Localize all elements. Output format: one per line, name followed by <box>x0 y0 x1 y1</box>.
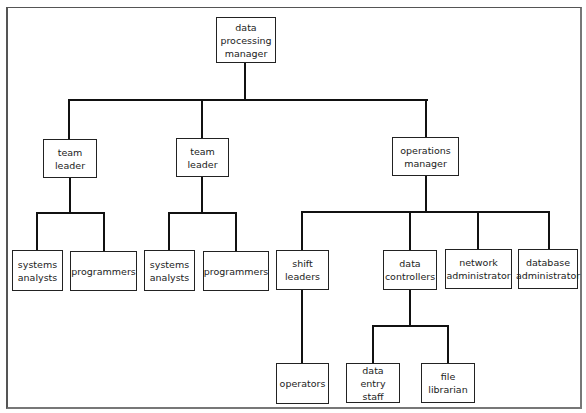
node-database-administrator: database administrator <box>518 249 578 289</box>
connector <box>201 99 203 138</box>
connector <box>548 211 550 249</box>
node-data-controllers: data controllers <box>383 250 437 290</box>
node-systems-analysts-1: systems analysts <box>12 250 63 291</box>
node-programmers-2: programmers <box>203 251 269 291</box>
node-network-administrator: network administrator <box>445 249 512 289</box>
connector <box>69 177 71 214</box>
connector <box>409 211 411 250</box>
connector <box>235 212 237 251</box>
diagram-frame <box>6 7 582 409</box>
node-data-processing-manager: data processing manager <box>216 17 276 63</box>
connector <box>301 289 303 363</box>
node-data-entry-staff: data entry staff <box>346 363 400 403</box>
connector <box>68 99 70 139</box>
connector <box>36 212 38 250</box>
connector <box>168 212 237 214</box>
connector <box>36 212 105 214</box>
connector <box>244 62 246 101</box>
connector <box>301 211 303 250</box>
connector <box>68 99 428 101</box>
node-systems-analysts-2: systems analysts <box>144 250 195 291</box>
node-shift-leaders: shift leaders <box>276 250 329 290</box>
connector <box>103 212 105 251</box>
node-operators: operators <box>276 363 329 404</box>
connector <box>201 176 203 214</box>
connector <box>425 99 427 137</box>
connector <box>409 289 411 327</box>
connector <box>301 211 550 213</box>
node-team-leader-1: team leader <box>43 139 97 178</box>
connector <box>372 325 449 327</box>
connector <box>425 175 427 212</box>
connector <box>477 211 479 249</box>
node-operations-manager: operations manager <box>392 137 459 176</box>
node-programmers-1: programmers <box>70 251 137 291</box>
connector <box>372 325 374 363</box>
node-team-leader-2: team leader <box>176 138 229 177</box>
connector <box>168 212 170 250</box>
connector <box>447 325 449 363</box>
node-file-librarian: file librarian <box>421 363 475 403</box>
